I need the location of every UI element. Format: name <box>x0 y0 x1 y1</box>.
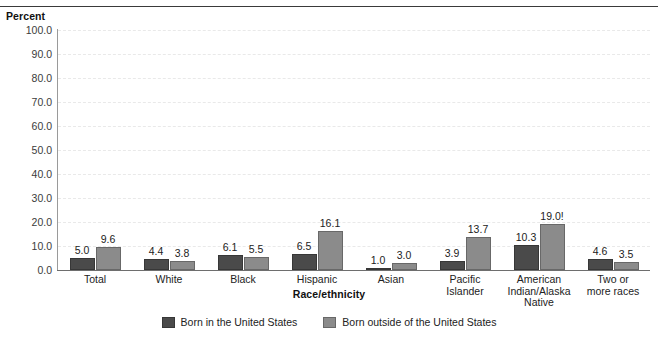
legend-label: Born outside of the United States <box>342 316 496 328</box>
bar-group: 1.03.0 <box>354 30 428 270</box>
legend-item[interactable]: Born in the United States <box>162 316 298 328</box>
chart-legend: Born in the United StatesBorn outside of… <box>0 316 658 328</box>
y-axis-tick-label: 10.0 <box>4 240 52 252</box>
bar-group: 5.09.6 <box>58 30 132 270</box>
bar[interactable] <box>144 259 169 270</box>
bar[interactable] <box>366 268 391 270</box>
bar[interactable] <box>466 237 491 270</box>
bar[interactable] <box>440 261 465 270</box>
bar[interactable] <box>244 257 269 270</box>
y-axis-tick-label: 30.0 <box>4 192 52 204</box>
bar-group: 10.319.0! <box>502 30 576 270</box>
bar[interactable] <box>614 262 639 270</box>
bar-group: 4.43.8 <box>132 30 206 270</box>
bar[interactable] <box>392 263 417 270</box>
bar-group: 3.913.7 <box>428 30 502 270</box>
plot-area: 5.09.64.43.86.15.56.516.11.03.03.913.710… <box>58 30 650 270</box>
bar[interactable] <box>318 231 343 270</box>
bar-value-label: 3.5 <box>608 248 645 260</box>
y-axis-tick-label: 80.0 <box>4 72 52 84</box>
bar-value-label: 9.6 <box>90 233 127 245</box>
bar-value-label: 3.0 <box>386 249 423 261</box>
y-axis-tick-label: 50.0 <box>4 144 52 156</box>
legend-item[interactable]: Born outside of the United States <box>323 316 496 328</box>
bar-group: 6.15.5 <box>206 30 280 270</box>
bar[interactable] <box>540 224 565 270</box>
y-axis-tick-label: 20.0 <box>4 216 52 228</box>
x-axis-title: Race/ethnicity <box>0 288 658 300</box>
bar-value-label: 5.5 <box>238 243 275 255</box>
bar[interactable] <box>170 261 195 270</box>
legend-label: Born in the United States <box>181 316 298 328</box>
y-axis-tick-label: 90.0 <box>4 48 52 60</box>
bar-value-label: 19.0! <box>534 210 571 222</box>
bar[interactable] <box>96 247 121 270</box>
bar[interactable] <box>514 245 539 270</box>
bar[interactable] <box>588 259 613 270</box>
bar-value-label: 3.8 <box>164 247 201 259</box>
y-axis-title: Percent <box>6 10 45 22</box>
y-axis-tick-label: 70.0 <box>4 96 52 108</box>
bar[interactable] <box>70 258 95 270</box>
y-axis-tick-label: 100.0 <box>4 24 52 36</box>
y-axis-tick-label: 60.0 <box>4 120 52 132</box>
bar-value-label: 13.7 <box>460 223 497 235</box>
chart-figure: Percent 0.010.020.030.040.050.060.070.08… <box>0 0 658 342</box>
bar[interactable] <box>292 254 317 270</box>
legend-color-swatch <box>323 317 336 328</box>
bar-group: 4.63.5 <box>576 30 650 270</box>
y-axis-tick-label: 40.0 <box>4 168 52 180</box>
top-divider-rule <box>0 6 658 7</box>
bar-value-label: 16.1 <box>312 217 349 229</box>
legend-color-swatch <box>162 317 175 328</box>
bar-group: 6.516.1 <box>280 30 354 270</box>
bar[interactable] <box>218 255 243 270</box>
x-axis-line <box>57 270 650 271</box>
